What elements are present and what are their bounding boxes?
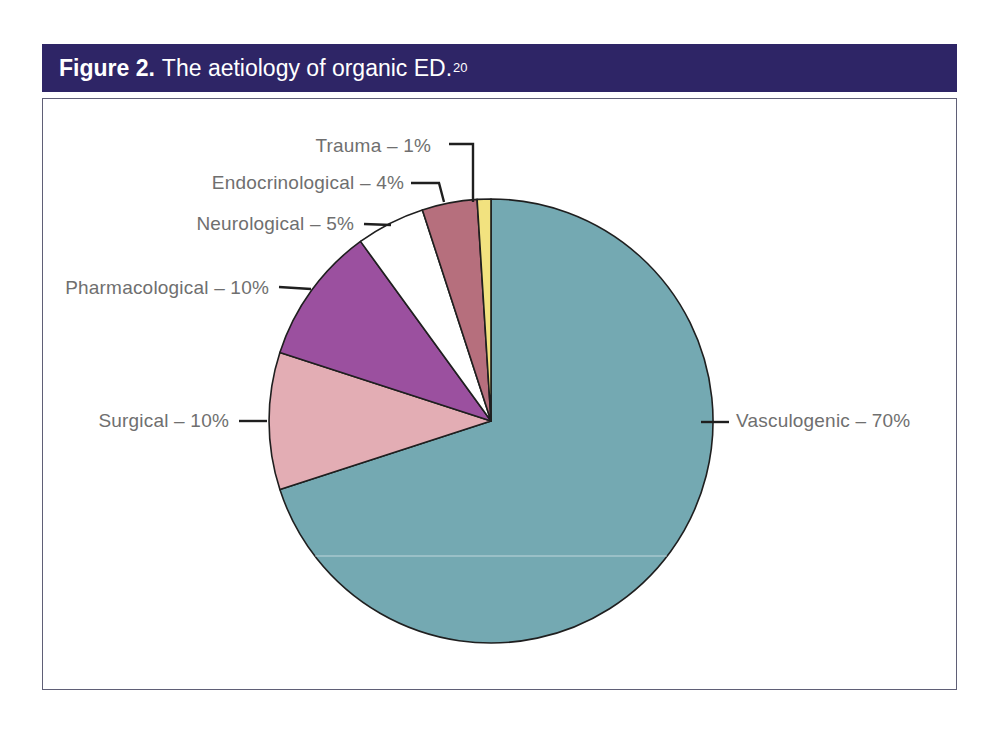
slice-label-surgical: Surgical – 10% bbox=[98, 410, 229, 432]
pie-chart bbox=[43, 99, 956, 689]
leader-line-neurological bbox=[364, 224, 391, 225]
slice-label-trauma: Trauma – 1% bbox=[315, 135, 431, 157]
pie-slices bbox=[269, 199, 713, 643]
figure-card: Figure 2. The aetiology of organic ED.20… bbox=[42, 44, 957, 690]
slice-label-vasculogenic: Vasculogenic – 70% bbox=[736, 410, 910, 432]
slice-label-neurological: Neurological – 5% bbox=[196, 213, 354, 235]
figure-header: Figure 2. The aetiology of organic ED.20 bbox=[42, 44, 957, 92]
figure-label: Figure 2. bbox=[59, 55, 155, 82]
leader-line-pharmacological bbox=[279, 287, 311, 289]
leader-line-trauma bbox=[449, 144, 473, 202]
pie-chart-panel: Trauma – 1% Endocrinological – 4% Neurol… bbox=[42, 98, 957, 690]
slice-label-endocrinological: Endocrinological – 4% bbox=[212, 172, 404, 194]
slice-label-pharmacological: Pharmacological – 10% bbox=[65, 277, 269, 299]
leader-line-endocrinological bbox=[411, 183, 444, 202]
figure-title: The aetiology of organic ED. bbox=[162, 55, 452, 82]
